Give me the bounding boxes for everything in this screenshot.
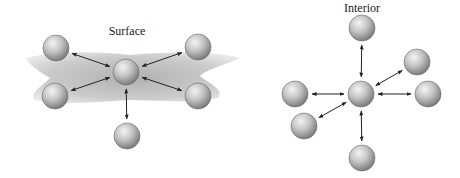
neighbor-molecule (291, 113, 317, 139)
neighbor-molecule (349, 15, 375, 41)
neighbor-molecule (43, 35, 69, 61)
neighbor-molecule (185, 34, 211, 60)
double-arrow (319, 102, 346, 117)
neighbor-molecule (185, 83, 211, 109)
surface-center-molecule (113, 59, 139, 85)
double-arrow (376, 70, 402, 85)
neighbor-molecule (349, 145, 375, 171)
diagram-svg: Surface Interior (0, 0, 460, 178)
surface-label: Surface (109, 24, 146, 38)
neighbor-molecule (415, 81, 441, 107)
interior-label: Interior (344, 1, 380, 15)
neighbor-molecule (282, 81, 308, 107)
interior-center-molecule (348, 81, 374, 107)
neighbor-molecule (42, 83, 68, 109)
diagram-canvas: Surface Interior (0, 0, 460, 178)
neighbor-molecule (114, 123, 140, 149)
neighbor-molecule (404, 49, 430, 75)
